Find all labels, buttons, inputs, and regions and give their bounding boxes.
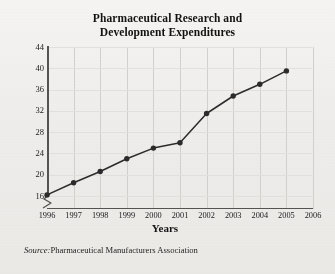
data-point <box>98 169 103 174</box>
data-point <box>257 82 262 87</box>
series-line <box>47 71 286 195</box>
chart-page: Pharmaceutical Research and Development … <box>0 0 335 274</box>
x-tick-label: 2003 <box>218 211 248 220</box>
x-tick-label: 2004 <box>245 211 275 220</box>
x-tick-label: 1997 <box>59 211 89 220</box>
source-note: Source:Pharmaceutical Manufacturers Asso… <box>24 245 198 255</box>
x-axis-label: Years <box>40 222 290 234</box>
x-tick-label: 2006 <box>298 211 328 220</box>
source-text: Pharmaceutical Manufacturers Association <box>50 245 197 255</box>
x-tick-label: 1998 <box>85 211 115 220</box>
x-tick-label: 2000 <box>138 211 168 220</box>
data-point <box>124 156 129 161</box>
data-point <box>231 93 236 98</box>
data-point <box>71 180 76 185</box>
data-point <box>151 145 156 150</box>
data-point <box>177 140 182 145</box>
x-tick-label: 2001 <box>165 211 195 220</box>
x-tick-label: 1996 <box>32 211 62 220</box>
source-label: Source: <box>24 245 50 255</box>
data-point <box>284 68 289 73</box>
data-point <box>204 111 209 116</box>
x-tick-label: 1999 <box>112 211 142 220</box>
x-tick-label: 2005 <box>271 211 301 220</box>
data-point <box>44 192 49 197</box>
x-tick-label: 2002 <box>192 211 222 220</box>
